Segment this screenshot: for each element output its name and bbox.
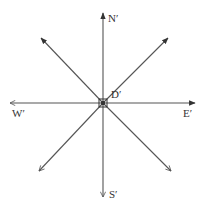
arrow-northwest [41, 38, 103, 103]
arrow-southwest [39, 103, 103, 171]
label-south: S′ [109, 188, 118, 200]
label-west: W′ [12, 107, 25, 119]
arrow-southeast [103, 103, 171, 171]
label-east: E′ [183, 107, 192, 119]
label-north: N′ [108, 12, 118, 24]
compass-diagram: D′ N′S′W′E′ [0, 0, 203, 204]
center-label: D′ [111, 88, 121, 100]
